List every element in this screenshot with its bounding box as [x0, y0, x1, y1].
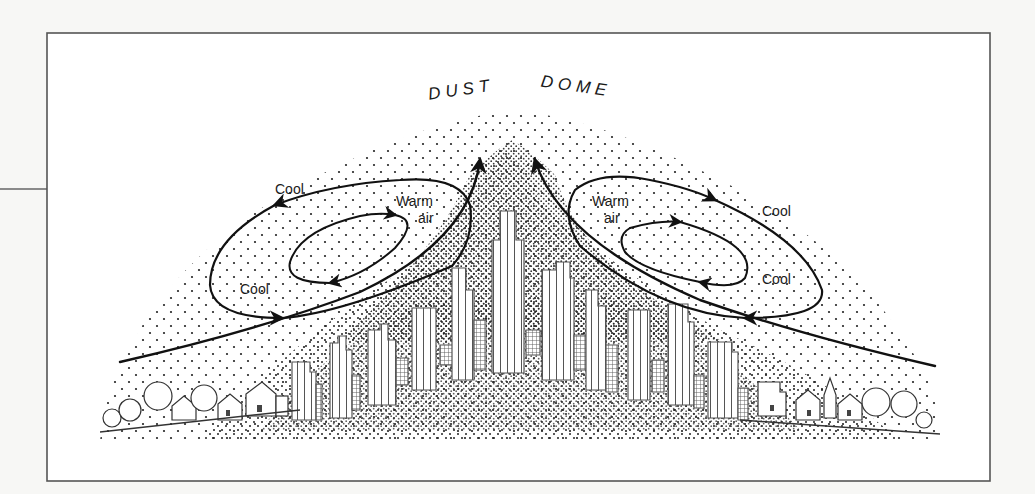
tree	[916, 412, 932, 428]
building	[526, 330, 540, 355]
building	[606, 345, 618, 392]
building	[316, 384, 322, 420]
building	[652, 360, 664, 392]
house-door	[257, 405, 262, 412]
house-door	[847, 410, 851, 416]
tree	[144, 382, 172, 410]
label-cool-left-inner: Cool	[240, 281, 269, 297]
building	[694, 375, 704, 408]
label-cool-right-outer: Cool	[762, 203, 791, 219]
building	[396, 358, 408, 385]
label-cool-right-inner: Cool	[762, 271, 791, 287]
building	[474, 320, 486, 370]
building	[352, 375, 360, 410]
tree	[103, 409, 121, 427]
building	[628, 310, 650, 400]
building	[412, 308, 436, 390]
label-cool-left-outer: Cool	[275, 181, 304, 197]
label-warm-right: Warm	[592, 193, 629, 209]
tree	[119, 399, 141, 421]
label-warm-left: Warm	[396, 193, 433, 209]
tree	[862, 388, 890, 416]
tree	[191, 385, 217, 411]
dust-dome-diagram: DUST DOME Cool Warm air Cool Warm air Co…	[0, 0, 1035, 494]
house-door	[770, 405, 774, 411]
tree	[891, 391, 917, 417]
label-air-left: air	[418, 210, 434, 226]
house-door	[807, 410, 811, 416]
building	[542, 262, 574, 380]
label-air-right: air	[604, 210, 620, 226]
building	[574, 335, 586, 370]
building	[738, 388, 748, 420]
house-door	[226, 410, 230, 416]
building	[708, 342, 738, 418]
